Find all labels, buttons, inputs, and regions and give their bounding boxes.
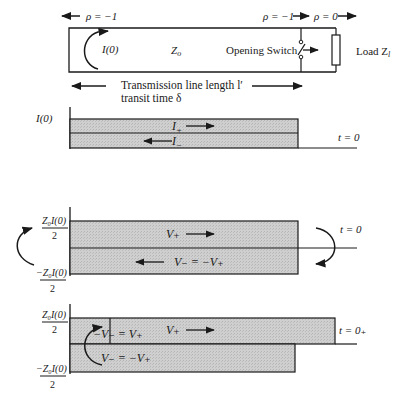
current-waveform-panel: I(0) I+ I− t = 0: [35, 107, 360, 150]
reflection-arrow-icon: [316, 228, 335, 264]
rho-load-label: ρ = 0: [313, 10, 338, 22]
lower-voltage-label: −Z₀I(0): [36, 363, 67, 375]
upper-voltage-label: Z₀I(0): [42, 309, 67, 321]
forward-voltage-label: V₊: [166, 323, 180, 337]
time-label: t = 0: [340, 223, 362, 235]
impedance-label: Zo: [171, 44, 181, 58]
svg-text:2: 2: [50, 379, 55, 390]
opening-switch-label: Opening Switch: [226, 44, 298, 56]
svg-text:2: 2: [52, 324, 57, 335]
lower-voltage-label: −Z₀I(0): [36, 267, 67, 279]
line-length-label: Transmission line length l′: [121, 79, 243, 92]
rho-left-label: ρ = −1: [85, 10, 117, 22]
load-label: Load Zl: [356, 45, 391, 59]
rho-left-annotation: ρ = −1: [62, 10, 117, 22]
transit-time-label: transit time δ: [121, 92, 181, 104]
backward-voltage-label: V₋ = −V₊: [101, 351, 151, 365]
time-label: t = 0: [338, 131, 360, 143]
svg-text:2: 2: [50, 283, 55, 294]
reflection-arrow-icon: [17, 228, 34, 265]
voltage-waveform-panel-t0: Z₀I(0) 2 −Z₀I(0) 2 V₊ V₋ = −V₊ t = 0: [17, 207, 362, 294]
rho-switch-label: ρ = −1: [262, 10, 294, 22]
reflected-wave-label: −V₋ = V₊: [93, 327, 143, 341]
voltage-waveform-panel-t0plus: Z₀I(0) 2 −Z₀I(0) 2 −V₋ = V₊ V₊ V₋ = −V₊ …: [36, 304, 366, 390]
current-label: I(0): [101, 43, 119, 56]
current-axis-label: I(0): [35, 112, 53, 125]
forward-voltage-label: V₊: [166, 227, 180, 241]
upper-voltage-label: Z₀I(0): [42, 215, 67, 227]
switch-contact-icon: [299, 40, 303, 44]
backward-voltage-label: V₋ = −V₊: [174, 255, 224, 269]
load-resistor-icon: [332, 35, 340, 65]
circuit-schematic: ρ = −1 ρ = −1 ρ = 0 Opening Switch Load …: [62, 10, 391, 104]
switch-contact-icon: [299, 55, 303, 59]
time-label: t = 0₊: [339, 324, 366, 336]
rho-switch-annotation: ρ = −1 ρ = 0: [262, 10, 356, 22]
transmission-line-diagram: ρ = −1 ρ = −1 ρ = 0 Opening Switch Load …: [0, 0, 398, 400]
svg-text:2: 2: [52, 230, 57, 241]
